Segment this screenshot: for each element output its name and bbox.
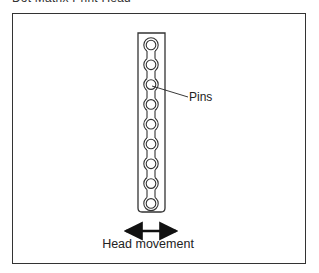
pin-icon: [146, 199, 156, 209]
print-head-diagram: Pins Head movement: [0, 0, 319, 273]
pin-icon: [146, 159, 156, 169]
pins-label: Pins: [189, 90, 212, 104]
pin-icon: [146, 139, 156, 149]
pin-icon: [146, 179, 156, 189]
head-movement-label: Head movement: [102, 237, 194, 251]
pin-icon: [146, 40, 156, 50]
pin-icon: [146, 100, 156, 110]
pin-column: [144, 38, 158, 211]
pin-icon: [146, 80, 156, 90]
pin-icon: [146, 119, 156, 129]
pin-icon: [146, 60, 156, 70]
